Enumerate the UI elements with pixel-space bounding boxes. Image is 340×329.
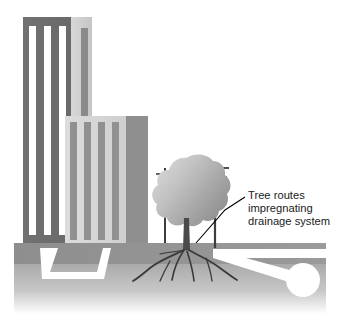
inspection-chamber: [286, 263, 320, 297]
annotation-line-1: Tree routes: [248, 189, 305, 201]
midrise-window-stripe: [112, 122, 119, 240]
annotation-line-2: impregnating: [248, 202, 313, 214]
tower-window-stripe: [59, 26, 66, 235]
midrise-window-stripe: [98, 122, 105, 240]
building-mid-rise: [65, 116, 148, 243]
midrise-dark-block: [126, 116, 148, 243]
scene-canvas: Tree routes impregnating drainage system: [0, 0, 340, 329]
tower-window-stripe: [29, 26, 36, 235]
tree-trunk: [183, 218, 190, 250]
midrise-window-stripe: [70, 122, 77, 240]
tower-window-stripe: [44, 26, 51, 235]
annotation-line-3: drainage system: [248, 215, 330, 227]
illustration-figure: Tree routes impregnating drainage system: [0, 0, 340, 329]
midrise-window-stripe: [84, 122, 91, 240]
tree-canopy: [152, 154, 230, 226]
